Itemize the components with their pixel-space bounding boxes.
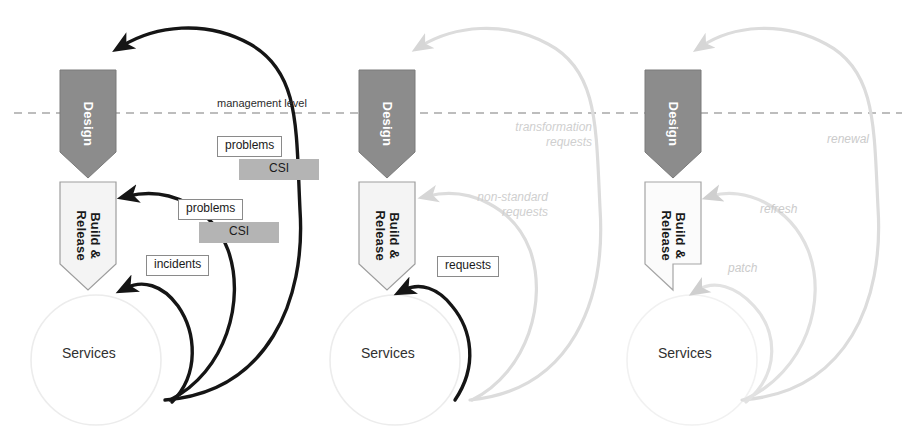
panel-1-services-label: Services [62,345,116,361]
arrow-incidents [126,284,192,402]
panel-3-build-release-label: Build & Release [659,206,686,266]
panel-3-renewal-label: renewal [827,132,869,147]
panel-3-build-line1: Build & [673,206,687,266]
panel-1-design-label: Design [81,94,95,154]
diagram-canvas: management level Design Build & Release … [0,0,916,447]
panel-2-non-standard-line2: requests [438,205,548,220]
panel-2-transformation-line1: transformation [470,120,592,135]
arrow-refresh [712,193,815,400]
panel-1-csi-upper-box[interactable]: CSI [239,159,319,180]
panel-requests-graphics [330,28,601,425]
diagram-graphics [0,0,916,447]
panel-2-transformation-line2: requests [470,135,592,150]
panel-2-transformation-requests-label: transformation requests [470,120,592,150]
panel-3-services-label: Services [658,345,712,361]
panel-1-build-line1: Build & [88,206,102,266]
arrow-non-standard-requests [428,194,536,400]
panel-1-problems-upper-box[interactable]: problems [217,136,282,157]
panel-2-non-standard-requests-label: non-standard requests [438,190,548,220]
panel-2-requests-box[interactable]: requests [437,256,499,277]
panel-3-patch-label: patch [728,261,757,276]
panel-2-build-line1: Build & [387,206,401,266]
panel-1-build-release-label: Build & Release [74,206,101,266]
panel-1-problems-lower-box[interactable]: problems [178,199,243,220]
panel-2-non-standard-line1: non-standard [438,190,548,205]
panel-1-incidents-box[interactable]: incidents [146,255,209,276]
panel-2-build-release-label: Build & Release [373,206,400,266]
panel-3-design-label: Design [666,94,680,154]
panel-2-design-label: Design [380,94,394,154]
panel-1-csi-lower-box[interactable]: CSI [199,222,279,243]
arrow-requests [404,287,470,400]
management-level-label: management level [217,97,307,109]
panel-3-refresh-label: refresh [760,202,797,217]
panel-2-build-line2: Release [373,206,387,266]
panel-3-build-line2: Release [659,206,673,266]
panel-1-build-line2: Release [74,206,88,266]
panel-2-services-label: Services [361,345,415,361]
arrow-patch [698,285,772,402]
